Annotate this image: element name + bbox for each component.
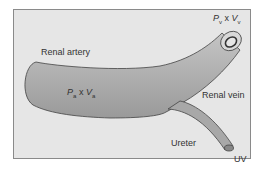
label-ureter: Ureter <box>171 138 196 148</box>
label-vein-formula: Pv x Vv <box>213 13 241 25</box>
volume-subscript: v <box>238 19 241 25</box>
times-symbol: x <box>79 87 84 97</box>
pressure-subscript: a <box>73 93 76 99</box>
label-renal-vein: Renal vein <box>202 90 245 100</box>
pressure-subscript: v <box>219 19 222 25</box>
label-artery-formula: Pa x Va <box>67 87 95 99</box>
diagram-frame: Renal artery Renal vein Ureter UV Pa x V… <box>13 9 251 159</box>
label-renal-artery: Renal artery <box>41 47 90 57</box>
times-symbol: x <box>225 13 230 23</box>
ureter-opening <box>225 145 234 151</box>
kidney-vessels-illustration <box>13 9 251 159</box>
label-uv: UV <box>234 154 247 164</box>
vessel-body <box>25 33 240 118</box>
volume-subscript: a <box>92 93 95 99</box>
